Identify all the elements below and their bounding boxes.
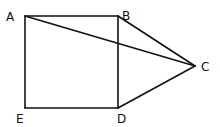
point-label-C: C	[201, 60, 209, 74]
point-label-D: D	[117, 112, 126, 126]
geometry-diagram: A B C D E	[0, 0, 220, 127]
segment-DC	[118, 66, 195, 108]
segment-BC	[118, 16, 195, 66]
point-label-A: A	[6, 10, 15, 24]
point-label-B: B	[122, 9, 130, 23]
point-label-E: E	[16, 112, 24, 126]
segment-AC	[25, 16, 195, 66]
